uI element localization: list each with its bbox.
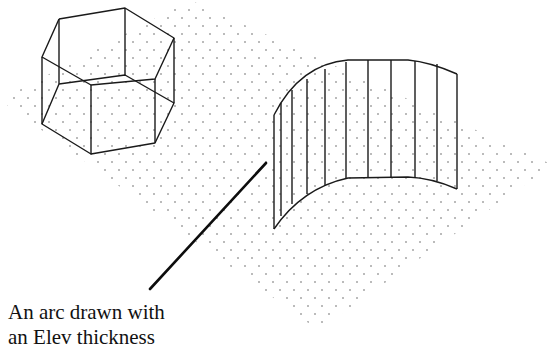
arc-surface [274,60,457,229]
arc-bottom-edge [274,177,457,229]
leader-line [150,163,266,289]
arc-top-edge [274,60,457,115]
hexagonal-prism [42,8,174,154]
caption-line-1: An arc drawn with [8,300,165,325]
isometric-dot-grid [0,1,554,339]
prism-top-face [42,8,174,85]
caption-line-2: an Elev thickness [8,325,165,350]
caption-label: An arc drawn with an Elev thickness [8,300,165,350]
